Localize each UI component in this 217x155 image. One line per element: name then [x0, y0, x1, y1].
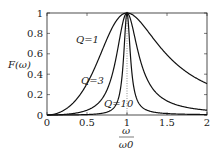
y-tick-label: 0.6	[27, 48, 43, 59]
annotation-q1: Q=1	[76, 34, 99, 45]
x-tick-label: 2	[204, 117, 210, 128]
annotation-q3: Q=3	[81, 75, 104, 86]
y-tick-label: 0.8	[27, 28, 43, 39]
annotation-q10: Q=10	[104, 98, 134, 109]
y-tick-label: 0	[37, 110, 43, 121]
y-axis-label: F(ω)	[7, 59, 31, 70]
y-tick-label: 0.4	[27, 69, 43, 80]
x-axis-label-denominator: ω0	[119, 139, 134, 150]
x-tick-label: 1.5	[159, 117, 175, 128]
x-tick-label: 0.5	[79, 117, 95, 128]
y-tick-label: 1	[37, 8, 43, 19]
resonance-chart: 00.511.5200.20.40.60.81 F(ω) ω ω0 Q=1 Q=…	[0, 0, 217, 155]
plot-area: 00.511.5200.20.40.60.81	[27, 8, 210, 129]
y-tick-label: 0.2	[27, 89, 43, 100]
x-tick-label: 0	[44, 117, 50, 128]
x-axis-label-numerator: ω	[122, 125, 130, 136]
